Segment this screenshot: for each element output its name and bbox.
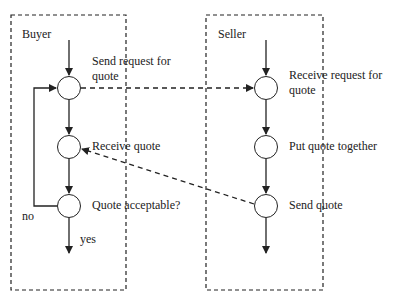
branch-no-label: no (22, 209, 34, 223)
buyer-step-send-request (58, 77, 81, 100)
buyer-step2-label: Receive quote (92, 139, 160, 153)
buyer-step3-label: Quote acceptable? (92, 198, 180, 212)
seller-lane-title: Seller (218, 27, 246, 41)
seller-step1-label-line1: Receive request for (289, 68, 382, 82)
buyer-step1-label-line1: Send request for (92, 54, 171, 68)
message-quote (82, 149, 254, 204)
seller-step-receive-request (255, 77, 278, 100)
buyer-step1-label-line2: quote (92, 69, 119, 83)
seller-step1-label-line2: quote (289, 83, 316, 97)
buyer-step-quote-acceptable (58, 195, 81, 218)
seller-step-put-quote-together (255, 136, 278, 159)
branch-yes-label: yes (80, 232, 96, 246)
buyer-step-receive-quote (58, 136, 81, 159)
seller-step2-label: Put quote together (289, 139, 377, 153)
seller-step-send-quote (255, 195, 278, 218)
buyer-no-loop-arrow (34, 88, 57, 206)
buyer-lane-title: Buyer (22, 27, 51, 41)
seller-step3-label: Send quote (289, 198, 343, 212)
buyer-seller-quote-diagram: Buyer Seller Send request for quote Rece… (0, 0, 397, 298)
